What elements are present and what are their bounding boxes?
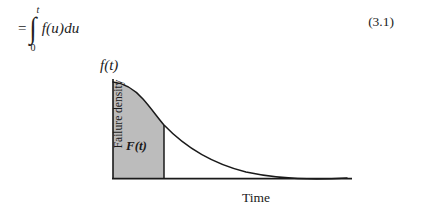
y-axis-label: Failure density	[112, 79, 124, 149]
figure-page: = t ∫ 0 f(u)du (3.1) f(t) F(t) Failure d…	[0, 0, 423, 212]
figure-svg	[0, 0, 423, 212]
area-label-Ft: F(t)	[126, 138, 147, 154]
curve-label-ft: f(t)	[100, 57, 118, 74]
x-axis-label: Time	[242, 190, 270, 206]
failure-density-figure: f(t) F(t) Failure density Time	[0, 0, 423, 212]
